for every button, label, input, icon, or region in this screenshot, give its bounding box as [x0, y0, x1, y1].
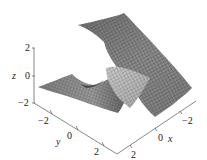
surface: [38, 13, 192, 117]
z-axis: 2 0 −2 z: [11, 42, 35, 108]
y-axis: −2 0 2 y: [34, 103, 117, 157]
x-tick-2: 2: [131, 149, 136, 160]
z-tick-neg2: −2: [18, 97, 29, 108]
y-tick-2: 2: [94, 146, 99, 157]
x-tick-neg2: −2: [182, 115, 193, 126]
y-tick-neg2: −2: [38, 115, 49, 126]
x-tick-0: 0: [158, 132, 163, 143]
x-axis-label: x: [167, 133, 173, 144]
z-axis-label: z: [11, 70, 16, 81]
z-tick-2: 2: [25, 42, 30, 53]
y-axis-label: y: [55, 136, 61, 147]
z-tick-0: 0: [25, 70, 30, 81]
y-tick-0: 0: [67, 130, 72, 141]
surface-plot: 2 0 −2 z −2 0 2 y 2 0 −2 x: [0, 0, 207, 160]
